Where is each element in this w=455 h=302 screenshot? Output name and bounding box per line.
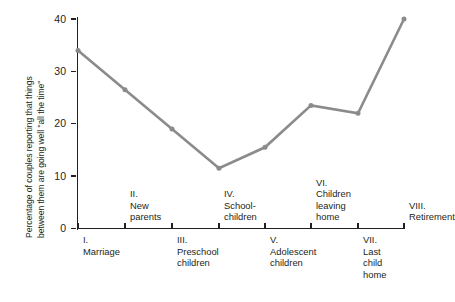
data-point-4	[217, 166, 222, 171]
data-point-5	[263, 145, 268, 150]
data-point-7	[356, 111, 361, 116]
stage-label-5: V. Adolescent children	[270, 234, 316, 269]
stage-label-4: IV. School- children	[224, 188, 257, 223]
stage-label-1: I. Marriage	[83, 234, 120, 257]
stage-label-7: VII. Last child home	[363, 234, 386, 280]
stage-label-2: II. New parents	[130, 188, 161, 223]
stage-label-8: VIII. Retirement	[409, 200, 455, 223]
stage-label-6: VI. Children leaving home	[316, 177, 351, 223]
data-point-1	[76, 48, 81, 53]
data-point-8	[402, 17, 407, 22]
data-point-2	[123, 87, 128, 92]
data-point-6	[309, 103, 314, 108]
data-point-3	[170, 127, 175, 132]
series-line	[78, 19, 404, 168]
stage-label-3: III. Preschool children	[177, 234, 219, 269]
